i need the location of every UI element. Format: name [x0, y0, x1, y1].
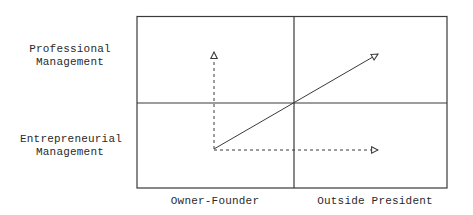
diagonal-solid-arrow: [214, 54, 378, 149]
matrix-diagram: [0, 0, 473, 215]
matrix-border: [137, 17, 447, 189]
